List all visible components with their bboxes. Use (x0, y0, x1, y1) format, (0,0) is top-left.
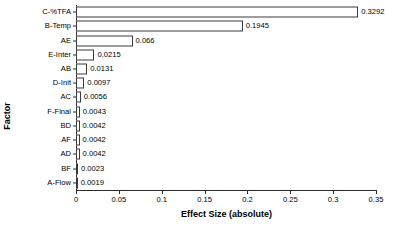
category-label: C-%TFA (42, 8, 71, 16)
bar-value-label: 0.3292 (361, 8, 384, 16)
category-label: A-Flow (47, 179, 71, 187)
x-axis-tick (76, 190, 77, 194)
bar-row: A-Flow0.0019 (76, 176, 376, 190)
bar (76, 120, 80, 131)
bar-row: AD0.0042 (76, 147, 376, 161)
bar-value-label: 0.0097 (87, 79, 110, 87)
bar-value-label: 0.0042 (83, 136, 106, 144)
x-axis-tick-label: 0.35 (369, 196, 384, 204)
pareto-effect-size-chart: Factor C-%TFA0.3292B-Temp0.1945AE0.066E-… (0, 0, 400, 232)
bar (76, 106, 80, 117)
bar (76, 64, 87, 75)
bar-row: AB0.0131 (76, 62, 376, 76)
bar (76, 35, 133, 46)
bar-value-label: 0.0023 (81, 165, 104, 173)
x-axis-tick-label: 0.25 (283, 196, 298, 204)
x-axis-tick (247, 190, 248, 194)
x-axis-tick (290, 190, 291, 194)
x-axis-tick-label: 0.3 (328, 196, 339, 204)
category-label: AE (61, 37, 71, 45)
x-axis-tick (162, 190, 163, 194)
bar-row: BF0.0023 (76, 162, 376, 176)
bar-value-label: 0.066 (136, 37, 155, 45)
bar-row: C-%TFA0.3292 (76, 5, 376, 19)
bar-row: F-Final0.0043 (76, 105, 376, 119)
bar (76, 149, 80, 160)
x-axis-tick-label: 0.05 (111, 196, 126, 204)
bar (76, 163, 78, 174)
bar (76, 21, 243, 32)
bar-value-label: 0.0131 (90, 65, 113, 73)
plot-area: C-%TFA0.3292B-Temp0.1945AE0.066E-Inter0.… (76, 5, 376, 190)
y-axis-title: Factor (0, 0, 14, 232)
bar-value-label: 0.0043 (83, 108, 106, 116)
category-label: B-Temp (45, 23, 71, 31)
bar-row: AC0.0056 (76, 90, 376, 104)
bar-value-label: 0.0056 (84, 94, 107, 102)
x-axis-tick (205, 190, 206, 194)
x-axis-tick-label: 0.15 (197, 196, 212, 204)
category-label: F-Final (47, 108, 71, 116)
x-axis-tick-label: 0 (74, 196, 78, 204)
bar-value-label: 0.1945 (246, 23, 269, 31)
category-label: E-Inter (48, 51, 71, 59)
category-label: AB (61, 65, 71, 73)
category-label: AC (60, 94, 71, 102)
bar-value-label: 0.0042 (83, 151, 106, 159)
bar-value-label: 0.0042 (83, 122, 106, 130)
bar-value-label: 0.0215 (97, 51, 120, 59)
x-axis-title: Effect Size (absolute) (76, 209, 377, 219)
bar-row: AE0.066 (76, 33, 376, 47)
category-label: D-Init (53, 79, 71, 87)
x-axis-tick (376, 190, 377, 194)
bar (76, 78, 84, 89)
bar (76, 135, 80, 146)
bar-row: D-Init0.0097 (76, 76, 376, 90)
category-label: BF (61, 165, 71, 173)
bar-row: BD0.0042 (76, 119, 376, 133)
bar (76, 7, 358, 18)
bar-row: B-Temp0.1945 (76, 19, 376, 33)
category-label: AF (61, 136, 71, 144)
x-axis-line (76, 190, 377, 191)
x-axis-tick (333, 190, 334, 194)
category-label: AD (60, 151, 71, 159)
bar-value-label: 0.0019 (81, 179, 104, 187)
x-axis-tick-label: 0.2 (242, 196, 253, 204)
bar (76, 177, 78, 188)
bar (76, 49, 94, 60)
bar-row: E-Inter0.0215 (76, 48, 376, 62)
category-label: BD (60, 122, 71, 130)
x-axis-tick (119, 190, 120, 194)
x-axis-tick-label: 0.1 (156, 196, 167, 204)
bar-row: AF0.0042 (76, 133, 376, 147)
bar (76, 92, 81, 103)
